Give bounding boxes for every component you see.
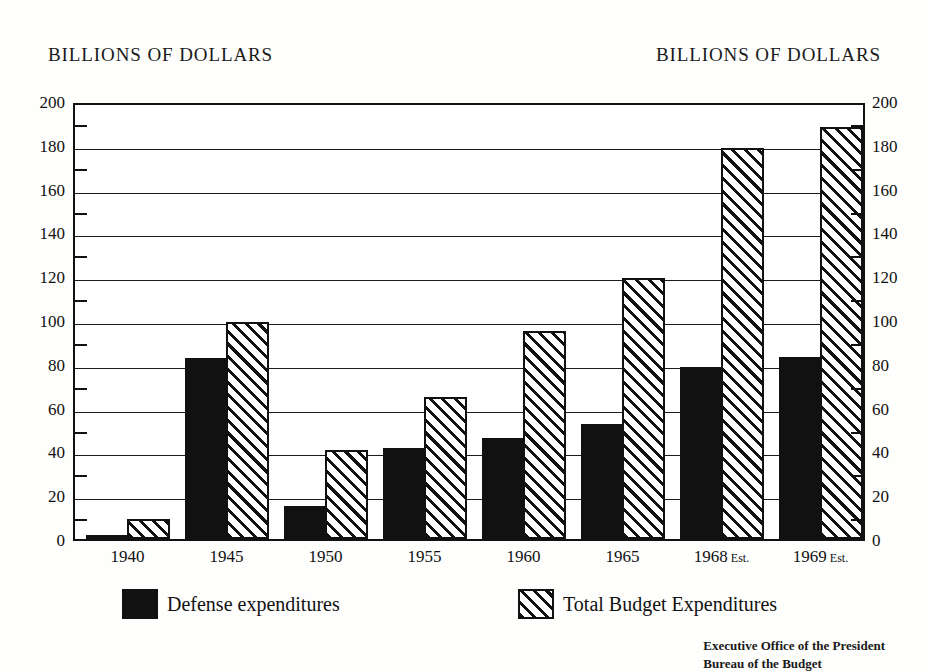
x-axis-tick-label: 1940 <box>82 548 174 567</box>
y-axis-minor-tick <box>73 169 87 171</box>
bar-total-budget <box>523 331 566 539</box>
y-axis-minor-tick <box>73 344 87 346</box>
x-axis-tick-label: 1965 <box>577 548 669 567</box>
y-axis-minor-tick <box>851 432 865 434</box>
y-axis-left-tick-label: 100 <box>40 313 66 330</box>
bar-defense <box>482 438 525 539</box>
bar-defense <box>185 358 228 539</box>
legend-swatch-solid-icon <box>122 589 158 619</box>
y-axis-minor-tick <box>73 256 87 258</box>
y-axis-minor-tick <box>851 125 865 127</box>
legend-label-defense: Defense expenditures <box>167 593 340 616</box>
y-axis-right-tick-label: 40 <box>872 444 889 461</box>
bar-total-budget <box>721 148 764 539</box>
legend-label-total-budget: Total Budget Expenditures <box>563 593 777 616</box>
x-axis-tick-label: 1945 <box>181 548 273 567</box>
y-axis-left-tick-label: 180 <box>40 138 66 155</box>
y-axis-left-tick-label: 20 <box>48 488 65 505</box>
x-axis-tick-label: 1960 <box>478 548 570 567</box>
y-axis-right-tick-label: 140 <box>872 225 898 242</box>
y-axis-minor-tick <box>851 169 865 171</box>
source-note-line-1: Executive Office of the President <box>703 637 885 655</box>
y-axis-right-tick-label: 80 <box>872 357 889 374</box>
y-axis-minor-tick <box>73 213 87 215</box>
y-axis-minor-tick <box>851 256 865 258</box>
y-axis-minor-tick <box>851 300 865 302</box>
y-axis-minor-tick <box>73 475 87 477</box>
y-axis-right-tick-label: 160 <box>872 182 898 199</box>
y-axis-left-tick-label: 80 <box>48 357 65 374</box>
y-axis-left-tick-label: 140 <box>40 225 66 242</box>
y-axis-minor-tick <box>73 519 87 521</box>
legend-item-defense: Defense expenditures <box>122 589 340 619</box>
y-axis-left-tick-label: 120 <box>40 269 66 286</box>
y-axis-right-tick-label: 0 <box>872 532 881 549</box>
y-axis-minor-tick <box>851 344 865 346</box>
y-axis-left-tick-label: 200 <box>40 94 66 111</box>
y-axis-right-tick-label: 60 <box>872 401 889 418</box>
y-axis-left-tick-label: 60 <box>48 401 65 418</box>
x-axis-tick-label: 1955 <box>379 548 471 567</box>
y-axis-right-tick-label: 200 <box>872 94 898 111</box>
y-axis-minor-tick <box>851 519 865 521</box>
bar-defense <box>383 448 426 539</box>
header-title-left: BILLIONS OF DOLLARS <box>48 44 273 66</box>
x-axis-tick-label: 1969 Est. <box>775 548 867 567</box>
y-axis-right-tick-label: 20 <box>872 488 889 505</box>
y-axis-right-tick-label: 120 <box>872 269 898 286</box>
y-axis-right-tick-label: 100 <box>872 313 898 330</box>
y-axis-minor-tick <box>73 125 87 127</box>
y-axis-left-tick-label: 40 <box>48 444 65 461</box>
chart-plot-area <box>73 103 865 541</box>
y-axis-minor-tick <box>73 432 87 434</box>
y-axis-minor-tick <box>73 300 87 302</box>
x-axis-tick-label: 1968 Est. <box>676 548 768 567</box>
chart-legend: Defense expenditures Total Budget Expend… <box>0 589 933 629</box>
y-axis-minor-tick <box>851 388 865 390</box>
y-axis-minor-tick <box>73 388 87 390</box>
bar-defense <box>779 357 822 539</box>
bar-total-budget <box>226 322 269 539</box>
bar-defense <box>86 535 129 539</box>
y-axis-left-tick-label: 0 <box>57 532 66 549</box>
source-note: Executive Office of the President Bureau… <box>703 637 885 672</box>
bar-total-budget <box>325 450 368 539</box>
source-note-line-2: Bureau of the Budget <box>703 655 885 672</box>
y-axis-minor-tick <box>851 213 865 215</box>
bar-total-budget <box>622 278 665 539</box>
bar-defense <box>284 506 327 539</box>
header-title-right: BILLIONS OF DOLLARS <box>656 44 881 66</box>
bar-defense <box>581 424 624 539</box>
y-axis-left-tick-label: 160 <box>40 182 66 199</box>
bar-defense <box>680 367 723 539</box>
bar-total-budget <box>424 397 467 539</box>
bar-total-budget <box>127 519 170 539</box>
y-axis-minor-tick <box>851 475 865 477</box>
y-axis-right-tick-label: 180 <box>872 138 898 155</box>
x-axis-tick-label: 1950 <box>280 548 372 567</box>
legend-swatch-hatch-icon <box>518 589 554 619</box>
legend-item-total-budget: Total Budget Expenditures <box>518 589 777 619</box>
